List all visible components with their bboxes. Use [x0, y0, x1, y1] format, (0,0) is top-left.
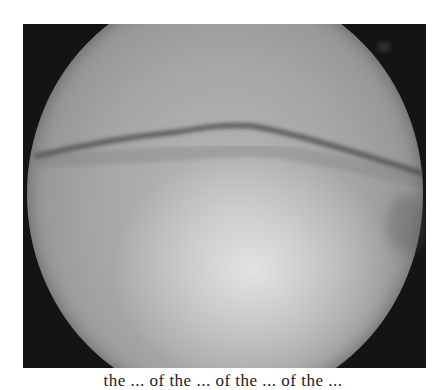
tissue-fold-line [27, 24, 423, 368]
dark-spot [377, 42, 391, 52]
shadow-region [387, 194, 426, 254]
figure-caption: the ... of the ... of the ... of the ... [0, 371, 446, 390]
endoscopic-image-frame [23, 24, 426, 368]
circular-scope-field [27, 24, 423, 368]
